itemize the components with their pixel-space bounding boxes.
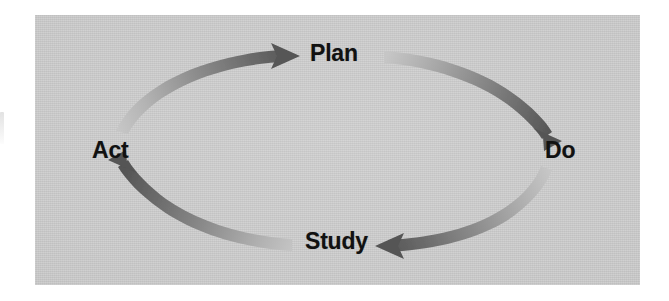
figure-root: Plan Do Study Act [0,0,669,301]
arrow-plan-to-do [384,51,562,151]
cycle-label-act: Act [92,139,128,162]
arrow-do-to-study [375,166,552,259]
cycle-label-study: Study [305,230,368,253]
arrow-study-to-act [108,150,292,251]
cycle-label-plan: Plan [310,42,358,65]
cycle-label-do: Do [545,139,575,162]
arrow-act-to-plan [116,43,300,134]
